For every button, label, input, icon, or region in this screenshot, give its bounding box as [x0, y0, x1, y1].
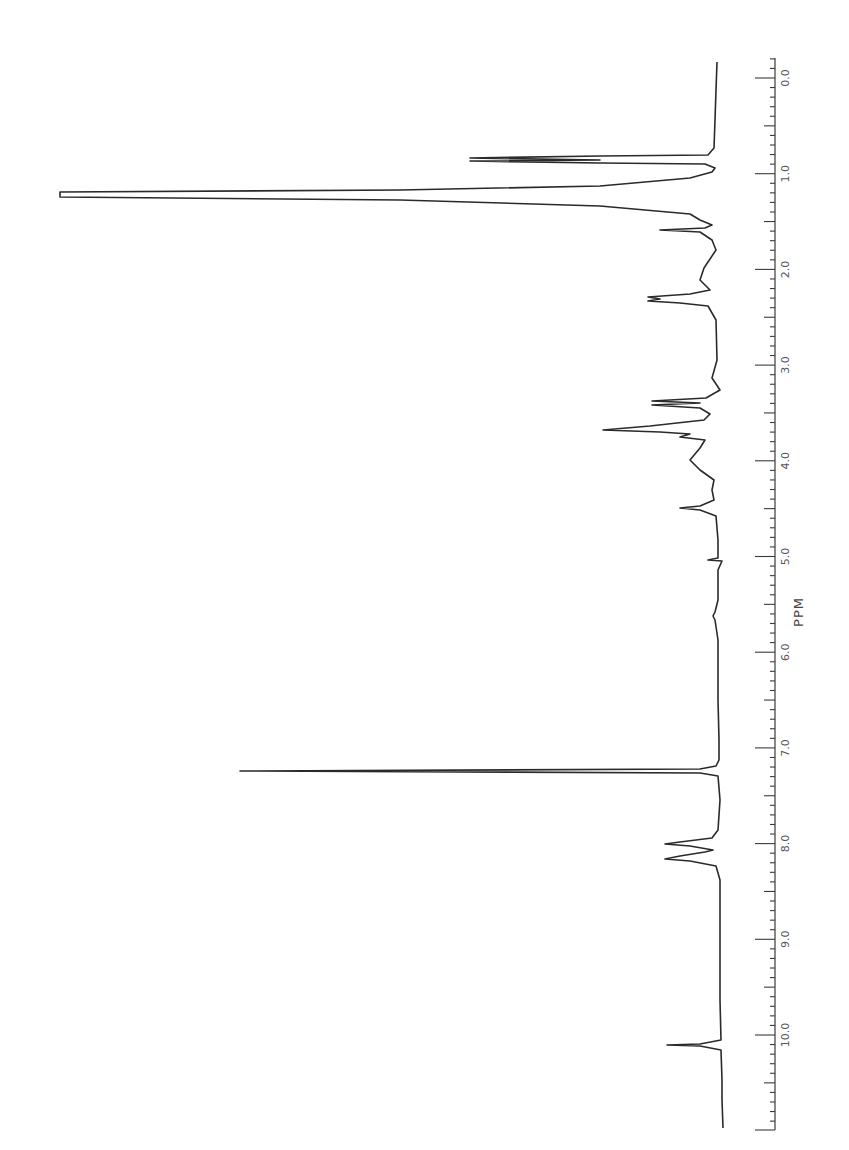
ppm-axis: 0.01.02.03.04.05.06.07.08.09.010.0 — [755, 58, 792, 1130]
axis-tick-label: 8.0 — [779, 835, 792, 853]
axis-tick-label: 10.0 — [779, 1023, 792, 1048]
axis-tick-label: 5.0 — [779, 548, 792, 566]
axis-tick-label: 3.0 — [779, 356, 792, 374]
spectrum-trace — [60, 62, 723, 1128]
axis-tick-label: 0.0 — [779, 69, 792, 87]
axis-tick-labels: 0.01.02.03.04.05.06.07.08.09.010.0 — [779, 69, 792, 1047]
nmr-spectrum-plot: 0.01.02.03.04.05.06.07.08.09.010.0 PPM — [0, 0, 849, 1150]
axis-tick-label: 4.0 — [779, 452, 792, 470]
axis-ticks — [755, 59, 775, 1130]
axis-tick-label: 1.0 — [779, 165, 792, 183]
axis-tick-label: 9.0 — [779, 931, 792, 949]
axis-tick-label: 6.0 — [779, 643, 792, 661]
axis-title: PPM — [791, 597, 806, 627]
axis-tick-label: 2.0 — [779, 261, 792, 279]
axis-tick-label: 7.0 — [779, 739, 792, 757]
